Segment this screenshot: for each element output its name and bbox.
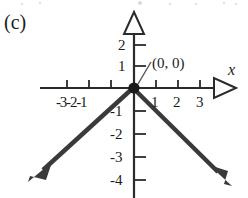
y-tick-label-1: 1: [118, 59, 126, 74]
y-tick-label-neg1: -1: [110, 104, 123, 119]
origin-point-marker: [128, 82, 139, 93]
origin-annotation-label: (0, 0): [152, 56, 185, 71]
y-tick-label-neg3: -3: [110, 150, 123, 165]
coordinate-graph: [0, 0, 248, 198]
right-ray: [133, 88, 232, 186]
x-tick-label-3: 3: [196, 95, 204, 110]
x-tick-label-2: 2: [173, 95, 181, 110]
y-tick-label-neg2: -2: [110, 127, 123, 142]
y-tick-label-neg4: -4: [110, 173, 123, 188]
y-tick-label-2: 2: [118, 38, 126, 53]
x-tick-label-1: 1: [151, 95, 159, 110]
x-tick-label-neg1: -1: [76, 94, 86, 110]
x-tick-label-neg2: -2: [66, 94, 76, 110]
y-axis-ticks: [134, 45, 146, 180]
y-axis-arrowhead-icon: [124, 12, 144, 34]
x-axis-label: x: [228, 62, 235, 78]
x-axis-arrowhead-icon: [214, 78, 236, 98]
x-axis-negative-tick-labels: -3-2-1: [56, 95, 86, 110]
x-tick-label-neg3: -3: [56, 94, 66, 110]
